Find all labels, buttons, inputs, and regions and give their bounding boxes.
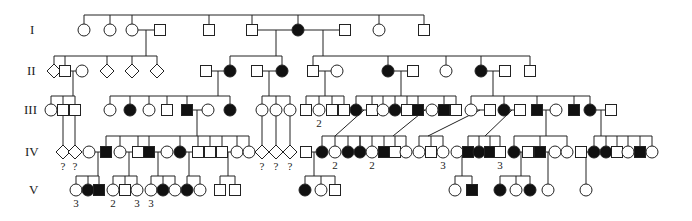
affected-male-symbol xyxy=(535,147,546,158)
unaffected-female-symbol xyxy=(70,184,82,196)
affected-female-symbol xyxy=(475,65,487,77)
sibling-count-label: 3 xyxy=(148,197,154,209)
unaffected-female-symbol xyxy=(284,104,296,116)
affected-male-symbol xyxy=(413,105,424,116)
affected-female-symbol xyxy=(498,104,510,116)
unaffected-female-symbol xyxy=(270,104,282,116)
unknown-sex-diamond-symbol xyxy=(283,145,297,159)
unaffected-female-symbol xyxy=(373,24,385,36)
affected-female-symbol xyxy=(588,146,600,158)
affected-female-symbol xyxy=(382,65,394,77)
unaffected-male-symbol xyxy=(612,147,623,158)
unaffected-female-symbol xyxy=(78,24,90,36)
affected-female-symbol xyxy=(316,146,328,158)
affected-female-symbol xyxy=(508,146,520,158)
affected-female-symbol xyxy=(224,104,236,116)
affected-male-symbol xyxy=(635,147,646,158)
affected-male-symbol xyxy=(463,147,474,158)
affected-male-symbol xyxy=(467,185,478,196)
unaffected-female-symbol xyxy=(329,146,341,158)
unaffected-male-symbol xyxy=(339,105,350,116)
unaffected-male-symbol xyxy=(247,25,258,36)
unaffected-female-symbol xyxy=(104,24,116,36)
unaffected-male-symbol xyxy=(495,147,506,158)
unaffected-female-symbol xyxy=(465,104,477,116)
unaffected-male-symbol xyxy=(515,105,526,116)
unknown-status-label: ? xyxy=(73,160,78,172)
affected-female-symbol xyxy=(600,146,612,158)
unaffected-female-symbol xyxy=(76,65,88,77)
sibling-count-label: 3 xyxy=(497,159,503,171)
unaffected-male-symbol xyxy=(308,66,319,77)
unaffected-female-symbol xyxy=(580,184,592,196)
unaffected-female-symbol xyxy=(366,146,378,158)
affected-male-symbol xyxy=(379,147,390,158)
unaffected-female-symbol xyxy=(194,184,206,196)
affected-male-symbol xyxy=(485,147,496,158)
unaffected-male-symbol xyxy=(133,147,144,158)
affected-male-symbol xyxy=(182,105,193,116)
unaffected-male-symbol xyxy=(70,105,81,116)
unknown-status-label: ? xyxy=(274,160,279,172)
sibling-count-label: 2 xyxy=(316,117,322,129)
affected-female-symbol xyxy=(174,146,186,158)
unaffected-female-symbol xyxy=(400,146,412,158)
unaffected-female-symbol xyxy=(315,184,327,196)
unaffected-female-symbol xyxy=(45,104,57,116)
unaffected-male-symbol xyxy=(367,105,378,116)
unaffected-female-symbol xyxy=(646,146,658,158)
affected-male-symbol xyxy=(569,105,580,116)
affected-female-symbol xyxy=(224,65,236,77)
unaffected-female-symbol xyxy=(114,146,126,158)
affected-female-symbol xyxy=(350,104,362,116)
unaffected-female-symbol xyxy=(104,104,116,116)
unaffected-male-symbol xyxy=(205,147,216,158)
affected-male-symbol xyxy=(144,147,155,158)
affected-male-symbol xyxy=(101,147,112,158)
unaffected-male-symbol xyxy=(340,25,351,36)
unknown-sex-diamond-symbol xyxy=(255,145,269,159)
unaffected-male-symbol xyxy=(402,105,413,116)
unaffected-male-symbol xyxy=(301,105,312,116)
affected-male-symbol xyxy=(94,185,105,196)
affected-female-symbol xyxy=(342,146,354,158)
affected-female-symbol xyxy=(389,104,401,116)
affected-female-symbol xyxy=(494,184,506,196)
sibling-count-label: 2 xyxy=(332,159,338,171)
affected-female-symbol xyxy=(292,24,304,36)
unaffected-male-symbol xyxy=(330,185,341,196)
affected-male-symbol xyxy=(439,105,450,116)
unaffected-female-symbol xyxy=(107,184,119,196)
unaffected-female-symbol xyxy=(377,104,389,116)
unaffected-male-symbol xyxy=(576,147,587,158)
unaffected-male-symbol xyxy=(155,25,166,36)
unknown-status-label: ? xyxy=(288,160,293,172)
unaffected-female-symbol xyxy=(437,146,449,158)
unknown-sex-diamond-symbol xyxy=(68,145,82,159)
unaffected-male-symbol xyxy=(500,66,511,77)
affected-female-symbol xyxy=(181,184,193,196)
unaffected-male-symbol xyxy=(408,66,419,77)
unaffected-female-symbol xyxy=(231,146,243,158)
unaffected-male-symbol xyxy=(215,185,226,196)
unaffected-male-symbol xyxy=(252,66,263,77)
unknown-sex-diamond-symbol xyxy=(47,64,61,78)
unaffected-female-symbol xyxy=(131,184,143,196)
unaffected-male-symbol xyxy=(426,147,437,158)
unaffected-male-symbol xyxy=(120,185,131,196)
unaffected-male-symbol xyxy=(217,147,228,158)
affected-female-symbol xyxy=(524,184,536,196)
unaffected-male-symbol xyxy=(419,25,430,36)
affected-female-symbol xyxy=(584,104,596,116)
sibling-count-label: 2 xyxy=(110,197,116,209)
unaffected-male-symbol xyxy=(230,185,241,196)
unknown-sex-diamond-symbol xyxy=(150,64,164,78)
unaffected-female-symbol xyxy=(549,146,561,158)
unknown-sex-diamond-symbol xyxy=(100,64,114,78)
unknown-sex-diamond-symbol xyxy=(269,145,283,159)
pedigree-svg: 2?????22333233 xyxy=(0,0,692,221)
unaffected-female-symbol xyxy=(426,104,438,116)
unaffected-female-symbol xyxy=(622,146,634,158)
unaffected-female-symbol xyxy=(510,184,522,196)
unaffected-male-symbol xyxy=(162,105,173,116)
